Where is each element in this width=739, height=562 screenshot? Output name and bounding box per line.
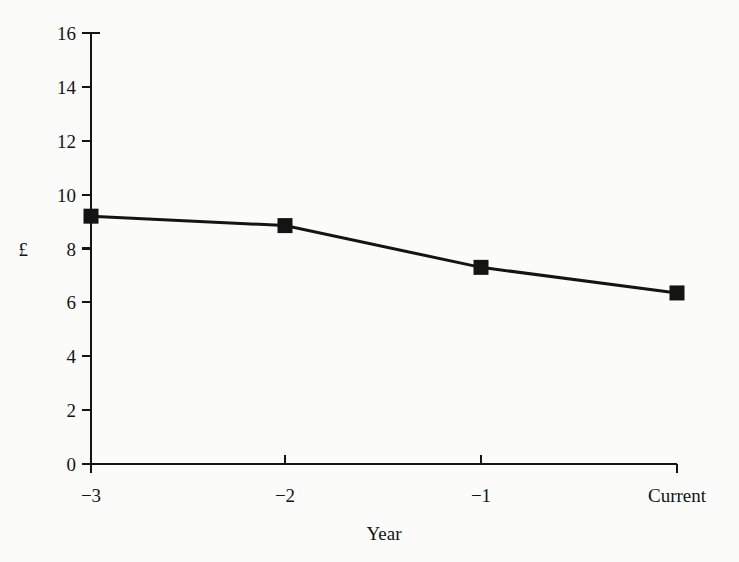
y-axis-tick-label: 2 [44, 401, 76, 420]
x-axis-tick-label: −3 [81, 486, 101, 505]
chart-plot-area [0, 0, 739, 562]
y-axis-tick-label: 16 [44, 24, 76, 43]
y-axis-title: £ [4, 239, 28, 258]
chart-series [84, 209, 685, 301]
data-point-marker [278, 218, 293, 233]
x-axis-tick-label: −1 [471, 486, 491, 505]
line-chart: 0246810121416 −3−2−1Current £ Year [0, 0, 739, 562]
data-point-marker [84, 209, 99, 224]
y-axis-tick-label: 0 [44, 455, 76, 474]
y-axis-tick-label: 6 [44, 293, 76, 312]
chart-axes [82, 33, 677, 473]
x-axis-tick-label: −2 [275, 486, 295, 505]
data-point-marker [474, 260, 489, 275]
y-axis-tick-label: 12 [44, 131, 76, 150]
x-axis-title: Year [366, 524, 401, 543]
data-point-marker [670, 285, 685, 300]
y-axis-tick-label: 4 [44, 347, 76, 366]
y-axis-tick-label: 14 [44, 77, 76, 96]
x-axis-tick-label: Current [648, 486, 706, 505]
y-axis-tick-label: 10 [44, 185, 76, 204]
y-axis-tick-label: 8 [44, 239, 76, 258]
series-line [91, 216, 677, 293]
